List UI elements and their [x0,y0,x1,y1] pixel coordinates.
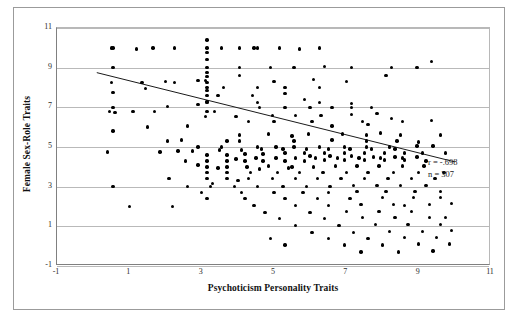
data-point [238,66,241,69]
data-point [281,185,284,188]
data-point [205,86,208,89]
data-point [256,86,259,89]
data-point [397,250,400,253]
data-point [196,145,199,148]
data-point [381,196,384,199]
data-point [388,145,391,148]
data-point [310,120,313,123]
data-point [256,145,259,148]
data-point [173,46,176,49]
data-point [303,159,306,162]
data-point [384,74,387,77]
data-point [111,91,114,94]
data-point [401,164,404,167]
data-point [106,150,109,153]
data-point [247,120,250,123]
data-point [352,184,355,187]
data-point [111,185,114,188]
data-point [417,140,420,143]
data-point [319,114,322,117]
data-point [205,100,208,103]
x-axis-ticks: -11357911 [0,268,517,284]
data-point [196,79,199,82]
data-point [343,151,346,154]
data-point [366,237,369,240]
data-point [316,177,319,180]
data-point [238,74,241,77]
data-point [444,216,447,219]
data-point [186,185,189,188]
data-point [196,163,199,166]
y-tick-label: 3 [32,182,52,190]
data-point [240,191,243,194]
data-point [173,81,176,84]
data-point [261,152,264,155]
data-point [247,177,250,180]
data-point [348,197,351,200]
data-point [144,87,147,90]
data-point [435,236,438,239]
data-point [225,153,228,156]
data-point [410,210,413,213]
data-point [216,94,219,97]
data-point [110,81,113,84]
data-point [225,159,228,162]
x-tick-label: 5 [258,268,288,276]
data-point [318,145,321,148]
data-point [428,216,431,219]
data-point [377,210,380,213]
data-point [205,159,208,162]
data-point [339,177,342,180]
data-point [422,164,425,167]
data-point [261,159,264,162]
data-point [167,177,170,180]
data-point [205,46,208,49]
data-point [254,156,257,159]
data-point [260,147,263,150]
data-point [412,196,415,199]
data-point [113,111,116,114]
data-point [205,165,208,168]
data-point [216,166,219,169]
data-point [328,154,331,157]
data-point [393,147,396,150]
data-point [298,47,301,50]
data-point [327,147,330,150]
data-point [151,46,154,49]
data-point [359,203,362,206]
data-point [318,46,321,49]
data-point [225,171,228,174]
data-point [240,148,243,151]
data-point [352,231,355,234]
data-point [298,171,301,174]
data-point [204,115,207,118]
data-point [287,166,290,169]
data-point [350,102,353,105]
data-point [439,133,442,136]
sample-size-value: n = 307 [428,168,458,180]
data-point [355,164,358,167]
data-point [205,66,208,69]
data-point [243,197,246,200]
data-point [390,66,393,69]
data-point [180,138,183,141]
data-point [377,164,380,167]
data-point [327,191,330,194]
data-point [205,38,208,41]
data-point [348,147,351,150]
data-point [166,105,169,108]
data-point [256,185,259,188]
data-point [350,106,353,109]
data-point [251,94,254,97]
data-point [166,139,169,142]
scatter-plot-figure: -11357911 -11357911 Psychoticism Persona… [0,0,517,321]
data-point [415,155,418,158]
data-point [233,185,236,188]
data-point [290,165,293,168]
data-point [341,132,344,135]
data-point [238,133,241,136]
data-point [388,230,391,233]
data-point [234,157,237,160]
data-point [413,190,416,193]
data-point [312,78,315,81]
